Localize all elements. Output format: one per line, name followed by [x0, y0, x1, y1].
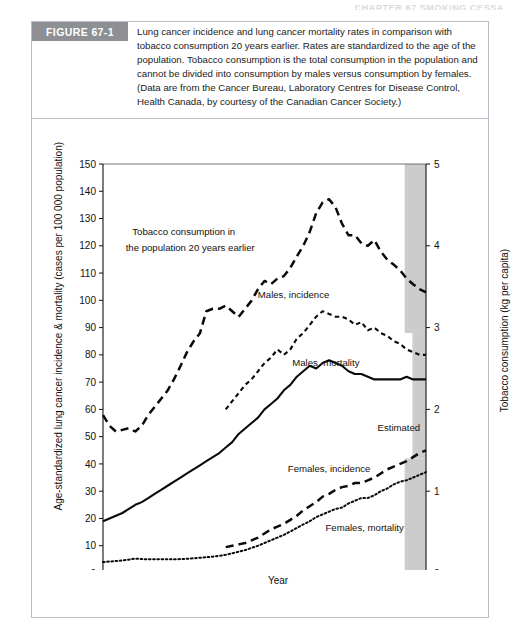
series-annotation: Females, mortality [325, 522, 404, 533]
y-tick-label-left: 0 [90, 568, 96, 570]
x-axis-label-text: Year [268, 575, 288, 586]
series-annotation: Males, mortality [292, 357, 359, 368]
figure-container: FIGURE 67-1 Lung cancer incidence and lu… [31, 21, 489, 618]
y-tick-label-left: 60 [85, 404, 97, 415]
y-tick-label-left: 20 [85, 513, 97, 524]
y-axis-right-label: Tobacco consumption (kg per capita) [499, 151, 510, 511]
y-tick-label-left: 150 [79, 159, 96, 170]
figure-caption-row: FIGURE 67-1 Lung cancer incidence and lu… [32, 22, 488, 119]
y-tick-label-left: 70 [85, 377, 97, 388]
y-tick-label-right: 1 [434, 486, 440, 497]
y-tick-label-left: 120 [79, 240, 96, 251]
estimated-shaded-region [405, 458, 426, 570]
series-line [103, 472, 426, 562]
y-tick-label-right: 4 [434, 240, 440, 251]
series-annotation: the population 20 years earlier [126, 242, 256, 253]
running-header: CHAPTER 67 SMOKING CESSA [0, 0, 518, 10]
figure-page: CHAPTER 67 SMOKING CESSA FIGURE 67-1 Lun… [0, 0, 518, 643]
y-tick-label-left: 50 [85, 431, 97, 442]
series-annotation: Females, incidence [288, 463, 371, 474]
series-annotation: Males, incidence [258, 289, 329, 300]
series-annotation: Estimated [378, 422, 421, 433]
estimated-shaded-region [405, 164, 426, 333]
figure-number-badge: FIGURE 67-1 [32, 22, 128, 41]
x-axis-label: Year [32, 575, 488, 586]
y-tick-label-left: 90 [85, 322, 97, 333]
y-tick-label-left: 30 [85, 486, 97, 497]
series-line [103, 360, 426, 521]
series-annotation: Tobacco consumption in [132, 226, 235, 237]
y-tick-label-left: 10 [85, 540, 97, 551]
chart-plot-area: Age-standardized lung cancer incidence &… [32, 120, 488, 618]
estimated-shaded-region [412, 333, 426, 458]
y-tick-label-left: 110 [80, 268, 96, 279]
y-axis-left-label: Age-standardized lung cancer incidence &… [53, 151, 64, 511]
y-tick-label-right: 3 [434, 322, 440, 333]
y-tick-label-right: 2 [434, 404, 440, 415]
line-chart: 0102030405060708090100110120130140150012… [32, 120, 488, 570]
running-header-text: CHAPTER 67 SMOKING CESSA [355, 3, 504, 10]
y-tick-label-left: 80 [85, 349, 97, 360]
y-tick-label-left: 40 [85, 459, 97, 470]
y-tick-label-right: 0 [434, 568, 440, 570]
y-tick-label-left: 100 [79, 295, 96, 306]
y-tick-label-left: 130 [79, 213, 96, 224]
figure-caption-text: Lung cancer incidence and lung cancer mo… [137, 25, 481, 110]
y-tick-label-left: 140 [79, 186, 96, 197]
y-tick-label-right: 5 [434, 159, 440, 170]
